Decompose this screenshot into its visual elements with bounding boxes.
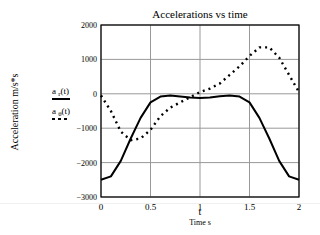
x-tick-label: 2 (297, 202, 302, 212)
y-tick-label: −2000 (76, 159, 97, 168)
legend: a r(t)a θ(t) (52, 86, 70, 119)
y-tick-label: −1000 (76, 124, 97, 133)
x-tick-label: 0.5 (145, 202, 157, 212)
y-tick-label: 1000 (81, 55, 97, 64)
grid-lines (101, 25, 299, 197)
y-axis-label: Acceleration m/s*s (9, 73, 20, 150)
y-tick-label: 0 (93, 90, 97, 99)
acceleration-chart: Accelerations vs time −3000−2000−1000010… (0, 0, 320, 235)
y-tick-labels: −3000−2000−1000010002000 (76, 21, 97, 202)
x-tick-label: 1.5 (244, 202, 256, 212)
legend-label: a r(t) (52, 86, 69, 98)
y-tick-label: 2000 (81, 21, 97, 30)
y-tick-label: −3000 (76, 193, 97, 202)
x-axis-label: t (199, 206, 202, 217)
x-tick-label: 0 (99, 202, 104, 212)
chart-title: Accelerations vs time (152, 8, 247, 20)
x-axis-sublabel: Time s (189, 218, 211, 227)
legend-label: a θ(t) (52, 106, 70, 118)
